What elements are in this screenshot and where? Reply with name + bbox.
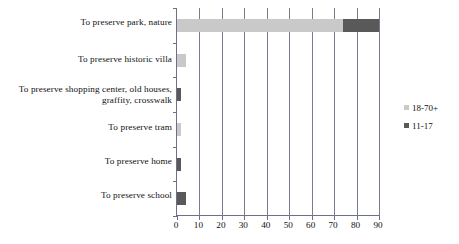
legend-label-11-17: 11-17 (412, 121, 433, 131)
y-axis-tick (173, 216, 177, 217)
chart-legend: 18-70+ 11-17 (404, 101, 459, 137)
legend-swatch-icon (404, 123, 409, 128)
category-label-historic-villa: To preserve historic villa (0, 54, 172, 65)
gridline (244, 8, 245, 216)
category-axis-labels: To preserve park, nature To preserve his… (0, 0, 174, 216)
y-axis-tick (173, 43, 177, 44)
x-axis-tick-label: 90 (365, 220, 391, 230)
bar-segment-18-70-[interactable] (177, 54, 186, 67)
bar-segment-11-17[interactable] (343, 19, 379, 32)
gridline (267, 8, 268, 216)
y-axis-tick (173, 181, 177, 182)
category-label-home: To preserve home (0, 156, 172, 167)
bar-segment-18-70-[interactable] (177, 19, 343, 32)
gridline (222, 8, 223, 216)
category-label-shopping-center: To preserve shopping center, old houses,… (0, 84, 172, 106)
bar-segment-18-70-[interactable] (177, 123, 181, 136)
bar-historic-villa[interactable] (177, 54, 186, 67)
category-label-park-nature: To preserve park, nature (0, 17, 172, 28)
category-label-school: To preserve school (0, 190, 172, 201)
gridline (289, 8, 290, 216)
gridline (379, 8, 380, 216)
legend-label-18-70: 18-70+ (412, 103, 438, 113)
legend-item-11-17: 11-17 (404, 119, 459, 132)
bar-segment-11-17[interactable] (177, 158, 181, 171)
gridline (199, 8, 200, 216)
legend-item-18-70: 18-70+ (404, 101, 459, 114)
plot-area (176, 8, 379, 216)
bar-home[interactable] (177, 158, 181, 171)
gridline (357, 8, 358, 216)
gridline (334, 8, 335, 216)
bar-school[interactable] (177, 192, 186, 205)
bar-shopping-center[interactable] (177, 88, 181, 101)
y-axis-tick (173, 8, 177, 9)
bar-segment-11-17[interactable] (177, 192, 186, 205)
gridline (312, 8, 313, 216)
category-label-tram: To preserve tram (0, 122, 172, 133)
bar-park-nature[interactable] (177, 19, 379, 32)
x-axis-tick-labels: 0102030405060708090 (176, 220, 386, 236)
horizontal-bar-chart: To preserve park, nature To preserve his… (0, 0, 459, 244)
x-axis-line (176, 215, 379, 216)
y-axis-tick (173, 112, 177, 113)
bar-segment-11-17[interactable] (177, 88, 181, 101)
y-axis-tick (173, 77, 177, 78)
bar-tram[interactable] (177, 123, 181, 136)
legend-swatch-icon (404, 105, 409, 110)
y-axis-tick (173, 147, 177, 148)
